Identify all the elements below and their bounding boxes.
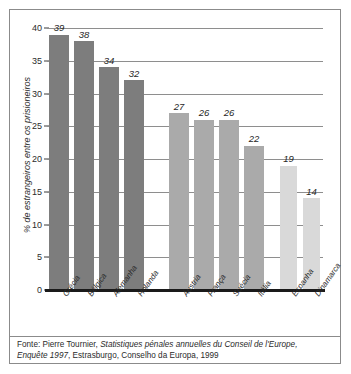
bar[interactable]: 39 [49,35,69,290]
bar[interactable]: 27 [169,113,189,290]
footnote-prefix: Fonte: Pierre Tournier, [17,340,100,349]
bar-value-label: 26 [199,108,210,118]
x-axis-category-labels: GréciaBélgicaAlemanhaHolandaÁustriaFranç… [47,293,327,339]
y-axis-tick-marks [0,28,49,290]
bar[interactable]: 19 [280,166,297,290]
plot-area: 39383432272626221914 [47,28,323,290]
bar-value-label: 27 [174,102,185,112]
bar-value-label: 38 [79,30,90,40]
footnote-suffix: , Estrasburgo, Conselho da Europa, 1999 [68,351,219,360]
bar[interactable]: 38 [74,41,94,290]
bar-value-label: 34 [104,56,115,66]
bar-value-label: 22 [249,134,260,144]
bar-value-label: 14 [306,187,317,197]
bar-value-label: 39 [54,23,65,33]
footnote-divider [10,336,340,337]
bar-value-label: 26 [224,108,235,118]
bar-value-label: 32 [129,69,140,79]
chart-figure: % de estrangeiros entre os prisioneiros … [0,0,351,374]
bar[interactable]: 34 [99,67,119,290]
source-footnote: Fonte: Pierre Tournier, Statistiques pén… [17,339,329,361]
bar-value-label: 19 [283,154,294,164]
bar[interactable]: 32 [124,80,144,290]
bar[interactable]: 26 [194,120,214,290]
bar[interactable]: 22 [244,146,264,290]
bar[interactable]: 26 [219,120,239,290]
